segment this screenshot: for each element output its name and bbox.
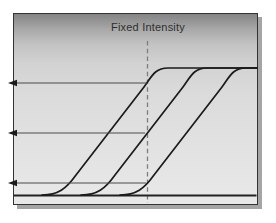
response-arrow-head-3	[8, 180, 17, 186]
fixed-intensity-label: Fixed Intensity	[111, 21, 185, 33]
response-arrow-head-1	[8, 80, 17, 86]
response-curve-3	[120, 68, 257, 195]
response-curve-2	[81, 68, 257, 195]
response-arrow-head-2	[8, 130, 17, 136]
curves-svg	[0, 0, 276, 223]
figure-canvas: Fixed Intensity	[0, 0, 276, 223]
